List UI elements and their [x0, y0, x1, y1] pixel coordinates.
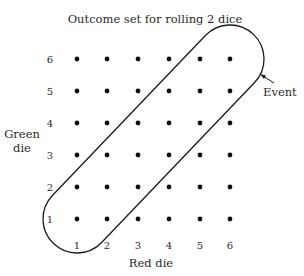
x-axis-label: Red die	[129, 256, 174, 270]
outcome-dot	[105, 185, 110, 190]
y-axis-label-line2: die	[13, 141, 31, 155]
y-tick: 3	[47, 150, 53, 161]
event-arrow-icon	[260, 74, 274, 83]
outcome-dot	[75, 89, 80, 94]
outcome-dot	[228, 121, 233, 126]
y-axis-label-line1: Green	[4, 127, 40, 141]
outcome-dot	[228, 185, 233, 190]
outcome-dot	[167, 185, 172, 190]
outcome-dot	[105, 217, 110, 222]
outcome-dot	[105, 89, 110, 94]
event-label: Event	[263, 85, 297, 99]
outcome-dot	[198, 121, 203, 126]
outcome-dot	[136, 89, 141, 94]
y-tick: 5	[47, 86, 53, 97]
outcome-dot	[228, 89, 233, 94]
outcome-dot	[136, 185, 141, 190]
outcome-dot	[75, 185, 80, 190]
outcome-dot	[167, 121, 172, 126]
y-tick: 2	[47, 182, 53, 193]
y-tick: 4	[47, 118, 53, 129]
outcome-dot	[167, 89, 172, 94]
outcome-dot	[198, 57, 203, 62]
y-axis-ticks: 1 2 3 4 5 6	[47, 54, 53, 225]
outcome-dot	[75, 121, 80, 126]
outcome-dot	[198, 153, 203, 158]
outcome-dot	[136, 217, 141, 222]
x-tick: 4	[166, 240, 172, 251]
x-tick: 2	[104, 240, 110, 251]
outcome-dot	[198, 185, 203, 190]
outcome-dot	[136, 57, 141, 62]
x-tick: 1	[74, 240, 80, 251]
outcome-dot	[75, 153, 80, 158]
outcome-dot	[167, 57, 172, 62]
outcome-dot	[105, 57, 110, 62]
outcome-dot	[167, 153, 172, 158]
outcome-dot	[228, 217, 233, 222]
outcome-dots	[75, 57, 233, 222]
outcome-dot	[136, 121, 141, 126]
outcome-dot	[198, 89, 203, 94]
outcome-dot	[75, 217, 80, 222]
x-tick: 5	[197, 240, 203, 251]
dice-outcome-diagram: Outcome set for rolling 2 dice Green die…	[0, 0, 304, 276]
outcome-dot	[228, 153, 233, 158]
outcome-dot	[228, 57, 233, 62]
x-tick: 3	[135, 240, 141, 251]
outcome-dot	[198, 217, 203, 222]
outcome-dot	[75, 57, 80, 62]
y-tick: 6	[47, 54, 53, 65]
outcome-dot	[105, 121, 110, 126]
diagram-title: Outcome set for rolling 2 dice	[68, 12, 243, 26]
x-tick: 6	[227, 240, 233, 251]
outcome-dot	[136, 153, 141, 158]
y-tick: 1	[47, 214, 53, 225]
outcome-dot	[105, 153, 110, 158]
outcome-dot	[167, 217, 172, 222]
